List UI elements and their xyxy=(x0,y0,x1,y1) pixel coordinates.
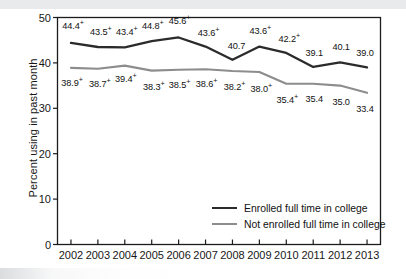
data-label: 35.0 xyxy=(332,97,349,107)
legend-swatch-enrolled xyxy=(212,207,237,209)
chart-legend: Enrolled full time in college Not enroll… xyxy=(212,200,386,232)
data-label: 38.7+ xyxy=(89,79,111,89)
data-label: 33.4 xyxy=(356,104,373,114)
data-label: 43.6+ xyxy=(198,28,220,38)
data-label: 38.0+ xyxy=(251,84,273,94)
data-label: 38.6+ xyxy=(196,79,218,89)
data-label: 38.2+ xyxy=(224,82,246,92)
data-label: 42.2+ xyxy=(278,34,300,44)
data-label: 43.6+ xyxy=(250,26,272,36)
data-label: 39.4+ xyxy=(115,74,137,84)
data-label: 35.4 xyxy=(305,94,322,104)
data-label: 39.0 xyxy=(356,48,373,58)
data-label: 45.6+ xyxy=(169,16,191,26)
legend-item-enrolled: Enrolled full time in college xyxy=(212,200,386,216)
data-label: 44.4+ xyxy=(62,21,84,31)
legend-item-not-enrolled: Not enrolled full time in college xyxy=(212,216,386,232)
data-label: 38.5+ xyxy=(169,80,191,90)
data-label: 39.1 xyxy=(305,48,322,58)
data-label: 38.3+ xyxy=(143,82,165,92)
data-label: 35.4+ xyxy=(276,95,298,105)
legend-label-enrolled: Enrolled full time in college xyxy=(244,203,368,214)
data-label: 44.8+ xyxy=(142,21,164,31)
data-label: 43.4+ xyxy=(116,27,138,37)
data-label: 40.1 xyxy=(332,42,349,52)
legend-label-not-enrolled: Not enrolled full time in college xyxy=(244,219,386,230)
legend-swatch-not-enrolled xyxy=(212,223,237,225)
chart-figure: Percent using in past month 50403020100 … xyxy=(0,0,406,279)
data-label: 38.9+ xyxy=(61,78,83,88)
data-label: 43.5+ xyxy=(90,27,112,37)
data-label: 40.7 xyxy=(228,41,245,51)
